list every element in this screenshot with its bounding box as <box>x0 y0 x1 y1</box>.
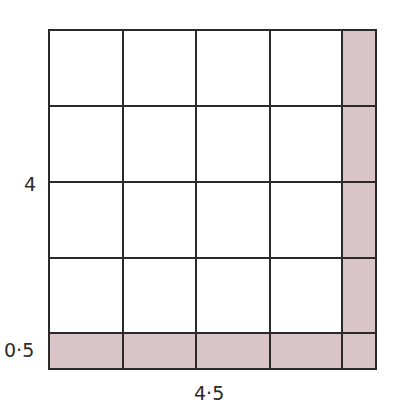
label-total-4-5: 4·5 <box>194 382 224 404</box>
area-model-diagram <box>0 0 399 406</box>
shaded-strips <box>49 30 376 369</box>
grid-lines <box>49 30 376 369</box>
shaded-right-strip <box>342 30 376 369</box>
shaded-bottom-strip <box>49 333 376 369</box>
label-side-4: 4 <box>24 173 36 195</box>
label-strip-0-5: 0·5 <box>4 339 34 361</box>
